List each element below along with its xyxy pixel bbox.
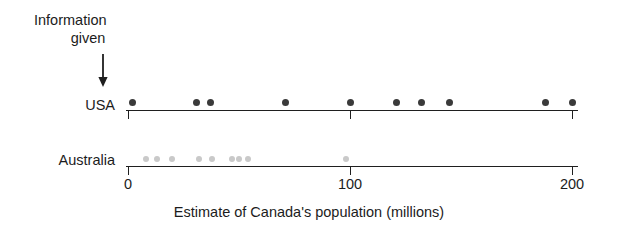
annotation-line-2: given xyxy=(34,30,142,47)
axis-tick-usa-100 xyxy=(350,110,351,119)
data-point-australia-7 xyxy=(245,156,251,162)
axis-tick-usa-200 xyxy=(572,110,573,119)
data-point-australia-0 xyxy=(143,156,149,162)
data-point-australia-2 xyxy=(169,156,175,162)
data-point-usa-0 xyxy=(129,99,136,106)
row-label-usa: USA xyxy=(20,97,115,113)
axis-line-australia xyxy=(126,166,578,167)
data-point-usa-9 xyxy=(569,99,576,106)
annotation-line-1: Information xyxy=(34,12,107,29)
data-point-australia-3 xyxy=(196,156,202,162)
row-label-australia: Australia xyxy=(10,152,115,168)
data-point-australia-1 xyxy=(154,156,160,162)
axis-tick-label-0: 0 xyxy=(124,176,132,192)
data-point-usa-4 xyxy=(347,99,354,106)
axis-tick-aus-100 xyxy=(350,166,351,175)
axis-tick-aus-200 xyxy=(572,166,573,175)
axis-tick-label-100: 100 xyxy=(338,176,362,192)
data-point-usa-2 xyxy=(207,99,214,106)
data-point-australia-4 xyxy=(209,156,215,162)
data-point-australia-6 xyxy=(236,156,242,162)
data-point-usa-7 xyxy=(446,99,453,106)
data-point-australia-5 xyxy=(229,156,235,162)
data-point-usa-8 xyxy=(542,99,549,106)
axis-tick-label-200: 200 xyxy=(560,176,584,192)
dot-plot-figure: Information given USA Australia 0100200 … xyxy=(0,0,618,239)
data-point-usa-6 xyxy=(418,99,425,106)
x-axis-title: Estimate of Canada's population (million… xyxy=(0,204,618,220)
data-point-usa-3 xyxy=(282,99,289,106)
data-point-usa-1 xyxy=(193,99,200,106)
down-arrow-icon xyxy=(95,54,111,88)
axis-tick-usa-0 xyxy=(128,110,129,119)
data-point-usa-5 xyxy=(393,99,400,106)
data-point-australia-8 xyxy=(343,156,349,162)
axis-line-usa xyxy=(126,110,578,111)
axis-tick-aus-0 xyxy=(128,166,129,175)
